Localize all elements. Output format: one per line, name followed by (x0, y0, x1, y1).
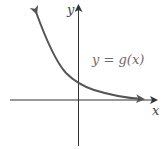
graph: y x y = g(x) (0, 0, 165, 149)
y-axis-label: y (66, 2, 75, 17)
x-axis-label: x (152, 103, 160, 118)
curve-label: y = g(x) (91, 52, 144, 67)
